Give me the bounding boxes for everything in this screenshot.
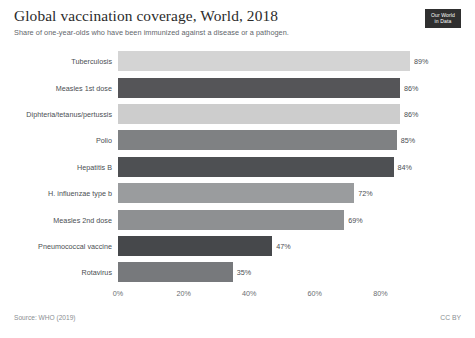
bar-row: Hepatitis B84% xyxy=(0,154,475,180)
bar-category-label: Polio xyxy=(0,136,112,145)
x-axis-tick-label: 80% xyxy=(373,289,387,298)
x-axis: 0%20%40%60%80% xyxy=(0,289,475,305)
bar-value-label: 89% xyxy=(414,57,428,66)
bar-value-label: 69% xyxy=(348,215,362,224)
bar-segment[interactable] xyxy=(118,236,272,256)
bar-row: H. influenzae type b72% xyxy=(0,180,475,206)
bar-category-label: Measles 2nd dose xyxy=(0,215,112,224)
bar-category-label: H. influenzae type b xyxy=(0,189,112,198)
bar-category-label: Measles 1st dose xyxy=(0,83,112,92)
chart-subtitle: Share of one-year-olds who have been imm… xyxy=(14,28,461,37)
chart-card: Global vaccination coverage, World, 2018… xyxy=(0,0,475,338)
logo-line-2: in Data xyxy=(425,18,461,24)
bar-category-label: Rotavirus xyxy=(0,268,112,277)
bar-category-label: Diphteria/tetanus/pertussis xyxy=(0,109,112,118)
bar-value-label: 35% xyxy=(237,268,251,277)
bar-segment[interactable] xyxy=(118,157,394,177)
bar-category-label: Hepatitis B xyxy=(0,162,112,171)
bar-row: Pneumococcal vaccine47% xyxy=(0,233,475,259)
bar-value-label: 85% xyxy=(401,136,415,145)
x-axis-tick-label: 20% xyxy=(176,289,190,298)
bar-value-label: 72% xyxy=(358,189,372,198)
bar-segment[interactable] xyxy=(118,210,344,230)
chart-footer: Source: WHO (2019) CC BY xyxy=(14,314,461,326)
bar-category-label: Pneumococcal vaccine xyxy=(0,241,112,250)
bar-row: Polio85% xyxy=(0,127,475,153)
bar-value-label: 84% xyxy=(398,162,412,171)
our-world-in-data-logo[interactable]: Our World in Data xyxy=(425,9,461,28)
license-note[interactable]: CC BY xyxy=(440,314,461,321)
bar-segment[interactable] xyxy=(118,130,397,150)
x-axis-tick-label: 40% xyxy=(242,289,256,298)
bar-value-label: 86% xyxy=(404,109,418,118)
x-axis-tick-label: 0% xyxy=(113,289,123,298)
chart-header: Global vaccination coverage, World, 2018… xyxy=(14,7,461,37)
bar-segment[interactable] xyxy=(118,78,400,98)
bar-segment[interactable] xyxy=(118,104,400,124)
bar-value-label: 86% xyxy=(404,83,418,92)
bar-row: Measles 2nd dose69% xyxy=(0,206,475,232)
bar-segment[interactable] xyxy=(118,51,410,71)
bar-value-label: 47% xyxy=(276,241,290,250)
bar-row: Diphteria/tetanus/pertussis86% xyxy=(0,101,475,127)
bar-row: Measles 1st dose86% xyxy=(0,74,475,100)
bar-segment[interactable] xyxy=(118,183,354,203)
bar-segment[interactable] xyxy=(118,262,233,282)
x-axis-tick-label: 60% xyxy=(308,289,322,298)
bar-row: Rotavirus35% xyxy=(0,259,475,285)
page-title: Global vaccination coverage, World, 2018 xyxy=(14,7,461,25)
source-note: Source: WHO (2019) xyxy=(14,314,76,321)
bar-chart-plot: Tuberculosis89%Measles 1st dose86%Diphte… xyxy=(0,48,475,290)
bar-category-label: Tuberculosis xyxy=(0,57,112,66)
bar-row: Tuberculosis89% xyxy=(0,48,475,74)
